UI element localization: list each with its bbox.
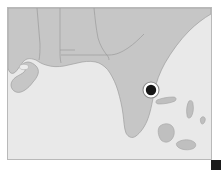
map-screenshot xyxy=(0,0,221,170)
island-south xyxy=(158,124,174,142)
corner-indicator[interactable] xyxy=(211,160,221,170)
lake-pontchartrain xyxy=(20,64,29,69)
location-marker[interactable] xyxy=(143,82,159,98)
island-southeast xyxy=(176,140,195,150)
map-canvas[interactable] xyxy=(8,8,211,159)
map-frame[interactable] xyxy=(7,7,212,160)
location-marker-dot xyxy=(146,85,156,95)
